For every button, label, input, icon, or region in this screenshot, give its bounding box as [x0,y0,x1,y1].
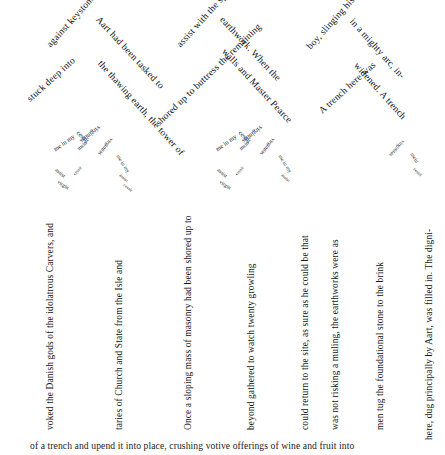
text-column-8: here, dug principally by Aart, was fille… [424,229,434,440]
text-column-1: voked the Danish gods of the idolatrous … [45,223,55,430]
text-column-5: could return to the site, as sure as he … [300,235,310,430]
text-column-3: Once a sloping mass of masonry had been … [183,215,193,430]
text-column-2: taries of Church and State from the Isle… [114,260,124,430]
bottom-running-text: of a trench and upend it into place, cru… [30,440,354,451]
text-column-6: was not risking a muling, the earthworks… [330,239,340,430]
text-column-7: men tug the foundational stone to the br… [375,262,385,430]
text-column-4: beyond gathered to watch twenty growling [246,263,256,430]
